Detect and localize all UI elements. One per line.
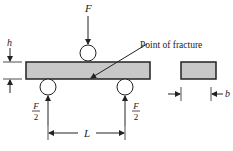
svg-text:F: F xyxy=(132,101,139,111)
width-dimension xyxy=(168,87,223,101)
svg-text:2: 2 xyxy=(134,112,139,122)
fracture-label: Point of fracture xyxy=(140,40,202,50)
left-reaction-label: F 2 xyxy=(32,101,40,122)
load-label: F xyxy=(84,2,92,14)
bend-test-diagram: F F 2 F 2 h L Point of fracture xyxy=(0,0,233,151)
svg-text:2: 2 xyxy=(34,112,39,122)
right-reaction-label: F 2 xyxy=(132,101,140,122)
svg-text:F: F xyxy=(32,101,39,111)
cross-section xyxy=(181,62,216,79)
right-support-roller xyxy=(117,79,133,95)
width-label: b xyxy=(225,88,230,99)
height-label: h xyxy=(7,37,12,48)
height-dimension xyxy=(3,48,22,93)
span-label: L xyxy=(83,127,90,139)
loading-roller xyxy=(80,45,96,61)
beam xyxy=(26,62,150,79)
left-support-roller xyxy=(40,79,56,95)
